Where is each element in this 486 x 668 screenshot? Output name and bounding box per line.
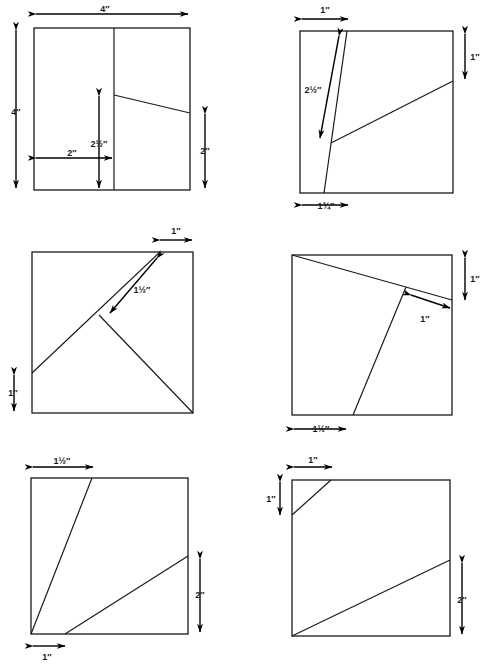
panel-5-label-right-height: 2″ [195,590,205,600]
panel-5-square [31,478,188,634]
panel-1-diagonal-cut [114,95,190,113]
panel-5-shallow-cut [65,556,188,634]
panel-1-label-left-height: 4″ [11,107,21,117]
panel-4-shallow-cut [292,255,452,300]
panel-3-main-diagonal [32,252,160,373]
panel-3-label-branch-length: 1½″ [134,285,152,295]
panel-6-label-top-offset: 1″ [308,455,318,465]
panel-6-bottom-right: 1″ 1″ 2″ [243,445,486,668]
panel-2-label-right-drop: 1″ [470,52,480,62]
panel-2-top-right: 1″ 1″ 2½″ 1¾″ [243,0,486,220]
panel-6-label-right-height: 2″ [457,595,467,605]
panel-1-label-inner-horizontal: 2″ [67,148,77,158]
panel-3-square [32,252,193,413]
panel-1-label-right-height: 2″ [200,146,210,156]
panel-1-label-top-width: 4″ [100,4,110,14]
panel-1-square [34,28,190,190]
panel-2-label-top-offset: 1″ [320,5,330,15]
panel-4-middle-right: 1″ 1″ 1½″ [243,220,486,445]
panel-3-branch-diagonal [99,315,193,413]
panel-6-long-cut [292,560,450,636]
panel-5-bottom-left: 1½″ 2″ 1″ [0,445,243,668]
panel-3-label-top-offset: 1″ [171,226,181,236]
panel-3-middle-left: 1″ 1½″ 1″ [0,220,243,445]
panel-5-label-top-offset: 1½″ [54,456,72,466]
panel-6-square [292,480,450,636]
panel-2-slant-dimension [320,36,339,138]
panel-4-square [292,255,452,415]
panel-4-label-bottom-offset: 1½″ [313,424,331,434]
panel-5-label-bottom-offset: 1″ [42,652,52,662]
panel-4-gap-dimension [411,295,450,308]
panel-2-label-bottom-offset: 1¾″ [318,201,336,211]
panel-2-label-slant-length: 2½″ [305,85,323,95]
panel-3-label-left-rise: 1″ [8,388,18,398]
panel-6-corner-cut [292,480,331,515]
panel-4-steep-cut [353,287,406,415]
panel-6-label-left-drop: 1″ [266,494,276,504]
panel-4-label-right-gap: 1″ [420,314,430,324]
diagram-sheet: 4″ 4″ 2½″ 2″ 2″ [0,0,486,668]
panel-5-steep-cut [31,478,92,634]
panel-1-top-left: 4″ 4″ 2½″ 2″ 2″ [0,0,243,220]
panel-2-square [300,31,453,193]
panel-4-label-right-drop: 1″ [470,274,480,284]
panel-1-label-inner-vertical: 2½″ [91,139,109,149]
panel-2-branch-cut [331,81,453,143]
